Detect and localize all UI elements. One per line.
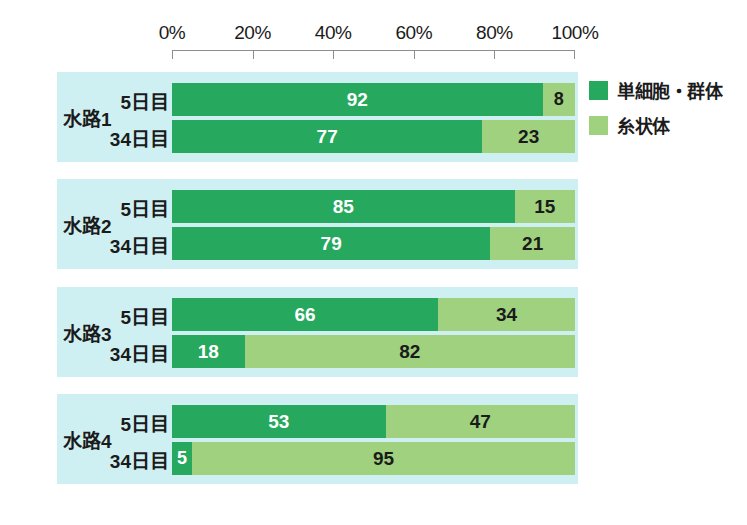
x-axis-tick-label: 20% (234, 22, 271, 44)
chart-bar-row: 5日目8515 (57, 190, 578, 223)
x-axis-tick-label: 60% (395, 22, 432, 44)
bar-segment-value: 85 (333, 196, 354, 218)
legend-swatch-icon (589, 81, 608, 100)
bar-row-label: 34日目 (110, 123, 169, 150)
bar-row-label: 5日目 (120, 408, 169, 435)
bar-segment-value: 82 (399, 341, 420, 363)
bar-segment-value: 8 (554, 89, 564, 110)
bar-segment[interactable]: 5 (172, 442, 192, 475)
bar-row-label: 34日目 (110, 230, 169, 257)
bar-row-label: 5日目 (120, 193, 169, 220)
bar-track: 1882 (172, 335, 575, 368)
legend-label: 単細胞・群体 (617, 77, 722, 103)
x-axis-tick-mark (172, 50, 173, 59)
bar-segment[interactable]: 77 (172, 120, 482, 153)
bar-row-label: 5日目 (120, 86, 169, 113)
bar-track: 8515 (172, 190, 575, 223)
bar-segment[interactable]: 95 (192, 442, 575, 475)
x-axis-tick-label: 40% (315, 22, 352, 44)
x-axis-line (172, 50, 575, 51)
bar-segment-value: 66 (294, 304, 315, 326)
bar-track: 7921 (172, 227, 575, 260)
stacked-bar-chart: 0%20%40%60%80%100% 水路15日目92834日目7723水路25… (0, 0, 747, 525)
chart-bar-row: 34日目7921 (57, 227, 578, 260)
chart-legend: 単細胞・群体糸状体 (589, 77, 744, 147)
chart-bar-row: 5日目6634 (57, 298, 578, 331)
chart-group: 水路25日目851534日目7921 (57, 179, 578, 269)
bar-segment[interactable]: 8 (543, 83, 575, 116)
bar-track: 5347 (172, 405, 575, 438)
legend-label: 糸状体 (617, 112, 670, 138)
bar-segment-value: 53 (268, 411, 289, 433)
chart-group: 水路15日目92834日目7723 (57, 72, 578, 162)
bar-segment-value: 95 (373, 448, 394, 470)
bar-segment-value: 21 (522, 233, 543, 255)
bar-track: 928 (172, 83, 575, 116)
legend-item[interactable]: 単細胞・群体 (589, 77, 744, 103)
bar-track: 595 (172, 442, 575, 475)
bar-segment[interactable]: 85 (172, 190, 515, 223)
chart-bar-row: 34日目7723 (57, 120, 578, 153)
legend-swatch-icon (589, 116, 608, 135)
bar-row-label: 34日目 (110, 445, 169, 472)
bar-segment[interactable]: 79 (172, 227, 490, 260)
bar-track: 6634 (172, 298, 575, 331)
x-axis-tick-mark (574, 50, 575, 59)
bar-segment-value: 79 (321, 233, 342, 255)
bar-segment-value: 34 (496, 304, 517, 326)
bar-row-label: 34日目 (110, 338, 169, 365)
x-axis-tick-mark (333, 50, 334, 59)
bar-segment-value: 18 (198, 341, 219, 363)
bar-segment[interactable]: 23 (482, 120, 575, 153)
x-axis-tick-mark (253, 50, 254, 59)
x-axis-tick-label: 0% (159, 22, 186, 44)
x-axis-tick-label: 80% (476, 22, 513, 44)
chart-bar-row: 5日目5347 (57, 405, 578, 438)
bar-segment[interactable]: 18 (172, 335, 245, 368)
bar-segment-value: 5 (177, 448, 187, 469)
bar-segment-value: 23 (518, 126, 539, 148)
x-axis: 0%20%40%60%80%100% (172, 22, 575, 68)
bar-segment-value: 92 (347, 89, 368, 111)
bar-row-label: 5日目 (120, 301, 169, 328)
chart-bar-row: 34日目1882 (57, 335, 578, 368)
bar-segment[interactable]: 92 (172, 83, 543, 116)
x-axis-tick-mark (414, 50, 415, 59)
bar-segment[interactable]: 82 (245, 335, 575, 368)
bar-segment-value: 15 (534, 196, 555, 218)
x-axis-tick-label: 100% (552, 22, 599, 44)
legend-item[interactable]: 糸状体 (589, 112, 744, 138)
chart-group: 水路45日目534734日目595 (57, 394, 578, 484)
bar-segment[interactable]: 34 (438, 298, 575, 331)
x-axis-tick-mark (494, 50, 495, 59)
x-axis-tick-labels: 0%20%40%60%80%100% (172, 22, 575, 48)
bar-track: 7723 (172, 120, 575, 153)
chart-bar-row: 34日目595 (57, 442, 578, 475)
bar-segment[interactable]: 15 (515, 190, 575, 223)
chart-bar-row: 5日目928 (57, 83, 578, 116)
bar-segment-value: 47 (470, 411, 491, 433)
bar-segment-value: 77 (317, 126, 338, 148)
bar-segment[interactable]: 47 (386, 405, 575, 438)
bar-segment[interactable]: 53 (172, 405, 386, 438)
chart-group: 水路35日目663434日目1882 (57, 287, 578, 377)
bar-segment[interactable]: 21 (490, 227, 575, 260)
bar-segment[interactable]: 66 (172, 298, 438, 331)
